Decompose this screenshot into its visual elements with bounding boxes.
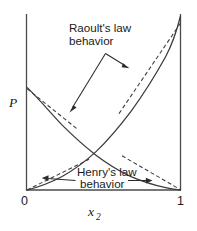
raoult-label-line2: behavior xyxy=(69,34,114,47)
y-axis-label: P xyxy=(8,95,17,110)
raoult-label-line1: Raoult's law xyxy=(69,21,132,34)
arrowhead-henry-left xyxy=(42,175,49,181)
plot-canvas: Raoult's law behavior Henry's law behavi… xyxy=(0,0,197,231)
x-axis-label-subscript: 2 xyxy=(96,212,101,222)
leader-raoult-left xyxy=(73,54,106,108)
leader-raoult-right xyxy=(106,54,125,66)
vapor-pressure-diagram: Raoult's law behavior Henry's law behavi… xyxy=(0,0,197,231)
x-tick-label-1: 1 xyxy=(177,194,184,208)
arrowhead-raoult-right xyxy=(122,63,130,68)
x-axis-label-base: x xyxy=(87,204,94,219)
henry-label-line2: behavior xyxy=(80,177,125,190)
x-tick-label-0: 0 xyxy=(21,194,28,208)
arrowhead-raoult-left xyxy=(70,105,77,112)
leader-henry-left xyxy=(48,178,76,180)
